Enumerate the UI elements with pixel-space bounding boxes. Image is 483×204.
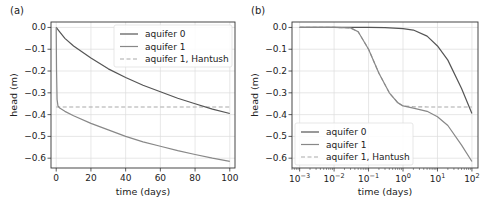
tick-exponent: 1 [441,172,445,180]
legend-label: aquifer 1, Hantush [326,152,410,162]
y-tick-label: −0.2 [24,66,46,76]
y-tick-label: −0.6 [265,153,287,163]
y-tick-label: −0.1 [265,44,287,54]
chart-panel-a: (a)0204060801000.0−0.1−0.2−0.3−0.4−0.5−0… [8,5,239,197]
x-tick-label: 10−2 [324,172,345,184]
y-axis-label: head (m) [8,73,19,116]
tick-exponent: 2 [476,172,480,180]
x-tick-label: 60 [155,173,167,183]
tick-base: 10 [464,174,476,184]
x-tick-label: 0 [53,173,59,183]
series-line-aquifer-1-hantush [300,27,472,107]
y-tick-label: −0.3 [24,88,46,98]
y-tick-label: −0.5 [265,131,287,141]
x-axis-label: time (days) [116,186,170,197]
x-tick-label: 20 [85,173,97,183]
panel-label: (a) [10,5,24,16]
tick-exponent: 0 [407,172,411,180]
x-tick-label: 101 [430,172,446,184]
x-tick-label: 10−1 [358,172,379,184]
legend-label: aquifer 0 [326,127,367,137]
tick-base: 10 [289,174,301,184]
legend-label: aquifer 0 [145,29,186,39]
tick-exponent: −2 [335,172,345,180]
legend-label: aquifer 1 [326,140,366,150]
tick-exponent: −1 [369,172,379,180]
y-tick-label: −0.4 [24,110,46,120]
x-tick-label: 100 [221,173,238,183]
legend-label: aquifer 1, Hantush [145,54,229,64]
y-tick-label: −0.4 [265,110,287,120]
y-axis-label: head (m) [249,73,260,116]
y-tick-label: −0.5 [24,131,46,141]
x-tick-label: 10−3 [289,172,310,184]
x-tick-label: 80 [189,173,201,183]
y-tick-label: −0.2 [265,66,287,76]
tick-base: 10 [358,174,370,184]
tick-exponent: −3 [301,172,311,180]
y-tick-label: 0.0 [273,22,288,32]
chart-panel-b: (b)10−310−210−11001011020.0−0.1−0.2−0.3−… [249,5,480,197]
y-tick-label: −0.3 [265,88,287,98]
figure: (a)0204060801000.0−0.1−0.2−0.3−0.4−0.5−0… [0,0,483,204]
x-axis-label: time (days) [358,186,412,197]
series-line-aquifer-0 [300,27,472,113]
legend: aquifer 0aquifer 1aquifer 1, Hantush [295,123,413,165]
y-tick-label: 0.0 [32,22,47,32]
x-tick-label: 100 [395,172,411,184]
panel-label: (b) [251,5,265,16]
x-tick-label: 40 [120,173,132,183]
x-tick-label: 102 [464,172,480,184]
y-tick-label: −0.1 [24,44,46,54]
tick-base: 10 [395,174,407,184]
legend-label: aquifer 1 [145,42,185,52]
tick-base: 10 [324,174,336,184]
y-tick-label: −0.6 [24,153,46,163]
legend: aquifer 0aquifer 1aquifer 1, Hantush [114,25,232,67]
tick-base: 10 [430,174,442,184]
